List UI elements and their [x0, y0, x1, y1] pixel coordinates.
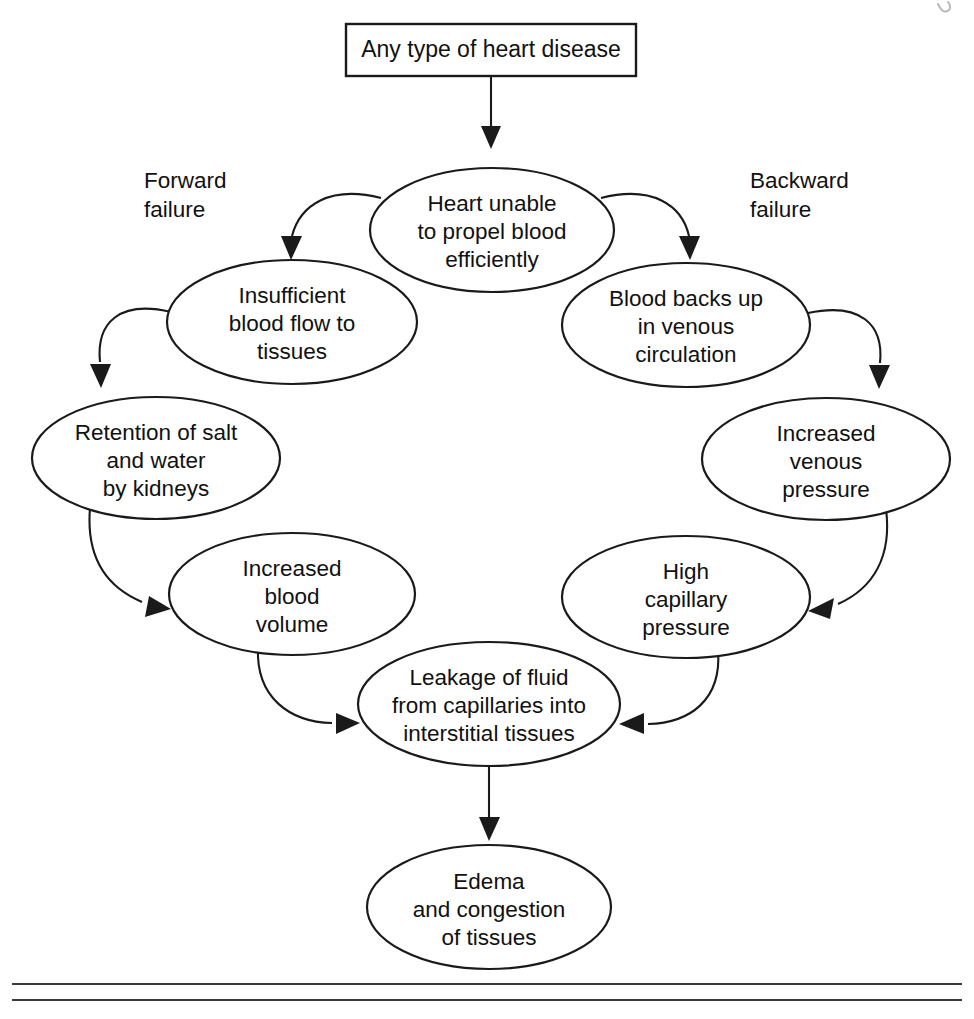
edge-insufficient-to-retention-line [100, 309, 171, 362]
edge-retention-to-volume-line [89, 508, 142, 602]
edge-heart-to-insufficient-line [292, 194, 381, 236]
edge-backsup-to-venous-arrowhead [869, 365, 890, 389]
edge-venous-to-capillary [808, 509, 887, 619]
node-increased-venous-pressure-line2: venous [790, 449, 863, 474]
figure-page: Any type of heart disease Forward failur… [0, 0, 974, 1019]
edge-heart-to-insufficient-arrowhead [281, 236, 302, 260]
edge-capillary-to-leakage [619, 650, 718, 734]
edge-insufficient-to-retention [90, 309, 171, 388]
node-edema-congestion-line2: and congestion [413, 897, 566, 922]
node-high-capillary-pressure-line3: pressure [642, 615, 730, 640]
node-leakage-of-fluid-line1: Leakage of fluid [410, 665, 569, 690]
node-edema-congestion-line1: Edema [453, 869, 525, 894]
scan-artifact-mark [938, 2, 950, 12]
node-any-type-of-heart-disease[interactable]: Any type of heart disease [346, 24, 636, 76]
backward-failure-line1: Backward [750, 168, 849, 193]
flowchart-canvas: Any type of heart disease Forward failur… [0, 0, 974, 1019]
node-retention-salt-water-line2: and water [107, 448, 206, 473]
node-increased-blood-volume-line1: Increased [243, 556, 342, 581]
node-edema-congestion-line3: of tissues [441, 925, 536, 950]
edge-volume-to-leakage-line [258, 648, 332, 723]
node-heart-unable[interactable]: Heart unable to propel blood efficiently [370, 168, 614, 292]
node-high-capillary-pressure[interactable]: High capillary pressure [562, 536, 810, 658]
edge-backsup-to-venous-line [808, 310, 880, 363]
edge-venous-to-capillary-line [838, 509, 887, 604]
backward-failure-line2: failure [750, 197, 811, 222]
edge-retention-to-volume [89, 508, 171, 617]
edge-disease-to-heart-arrowhead [481, 126, 501, 149]
node-leakage-of-fluid-line3: interstitial tissues [403, 721, 574, 746]
edge-venous-to-capillary-arrowhead [808, 598, 834, 619]
node-increased-blood-volume[interactable]: Increased blood volume [169, 533, 415, 655]
edge-capillary-to-leakage-line [648, 650, 718, 724]
edge-insufficient-to-retention-arrowhead [90, 364, 111, 388]
node-increased-blood-volume-line3: volume [256, 612, 329, 637]
node-retention-salt-water-line3: by kidneys [103, 476, 209, 501]
node-high-capillary-pressure-line2: capillary [645, 587, 728, 612]
node-retention-salt-water-line1: Retention of salt [75, 420, 238, 445]
node-heart-unable-line1: Heart unable [428, 191, 557, 216]
edge-retention-to-volume-arrowhead [145, 596, 171, 617]
edge-volume-to-leakage [258, 648, 360, 734]
node-heart-unable-line3: efficiently [445, 247, 539, 272]
node-edema-congestion[interactable]: Edema and congestion of tissues [367, 845, 611, 969]
node-insufficient-blood-flow-line3: tissues [257, 339, 327, 364]
forward-failure-line2: failure [144, 197, 205, 222]
node-increased-venous-pressure[interactable]: Increased venous pressure [702, 398, 950, 520]
edge-leakage-to-edema [479, 766, 500, 841]
node-blood-backs-up-line3: circulation [635, 342, 736, 367]
node-heart-unable-line2: to propel blood [418, 219, 567, 244]
edge-volume-to-leakage-arrowhead [336, 713, 360, 734]
edge-leakage-to-edema-arrowhead [479, 817, 500, 841]
edge-heart-to-backsup-arrowhead [679, 236, 700, 260]
label-forward-failure: Forward failure [144, 168, 227, 222]
forward-failure-line1: Forward [144, 168, 227, 193]
edge-heart-to-insufficient [281, 194, 381, 260]
edge-disease-to-heart [481, 76, 501, 149]
node-increased-blood-volume-line2: blood [264, 584, 319, 609]
label-backward-failure: Backward failure [750, 168, 849, 222]
node-high-capillary-pressure-line1: High [663, 559, 709, 584]
node-insufficient-blood-flow[interactable]: Insufficient blood flow to tissues [167, 260, 417, 384]
edge-capillary-to-leakage-arrowhead [619, 713, 644, 734]
node-increased-venous-pressure-line1: Increased [777, 421, 876, 446]
node-increased-venous-pressure-line3: pressure [782, 477, 870, 502]
edge-heart-to-backsup [601, 194, 700, 260]
node-blood-backs-up-line2: in venous [638, 314, 734, 339]
node-leakage-of-fluid[interactable]: Leakage of fluid from capillaries into i… [358, 642, 620, 766]
node-leakage-of-fluid-line2: from capillaries into [392, 693, 586, 718]
heart-disease-box-label: Any type of heart disease [361, 36, 621, 62]
edge-backsup-to-venous [808, 310, 890, 389]
node-blood-backs-up[interactable]: Blood backs up in venous circulation [562, 263, 810, 387]
node-blood-backs-up-line1: Blood backs up [609, 286, 763, 311]
node-insufficient-blood-flow-line1: Insufficient [238, 283, 346, 308]
node-insufficient-blood-flow-line2: blood flow to [229, 311, 355, 336]
node-retention-salt-water[interactable]: Retention of salt and water by kidneys [32, 397, 280, 519]
